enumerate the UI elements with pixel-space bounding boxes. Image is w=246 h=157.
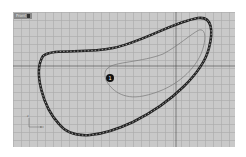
axis-icon-x-label: x bbox=[42, 125, 44, 129]
inner-offset-curve[interactable] bbox=[105, 30, 205, 97]
outer-curve-isocurves bbox=[39, 18, 211, 135]
viewport-front[interactable]: 1 Front z x bbox=[13, 12, 235, 147]
axis-icon-z-label: z bbox=[27, 114, 29, 118]
viewport-title-tab[interactable]: Front bbox=[14, 13, 32, 19]
callout-number: 1 bbox=[108, 75, 111, 81]
dropdown-arrow-icon[interactable] bbox=[27, 14, 30, 18]
outer-curve[interactable] bbox=[39, 18, 211, 135]
viewport-title: Front bbox=[16, 13, 26, 19]
viewport-scene: 1 bbox=[13, 12, 235, 147]
